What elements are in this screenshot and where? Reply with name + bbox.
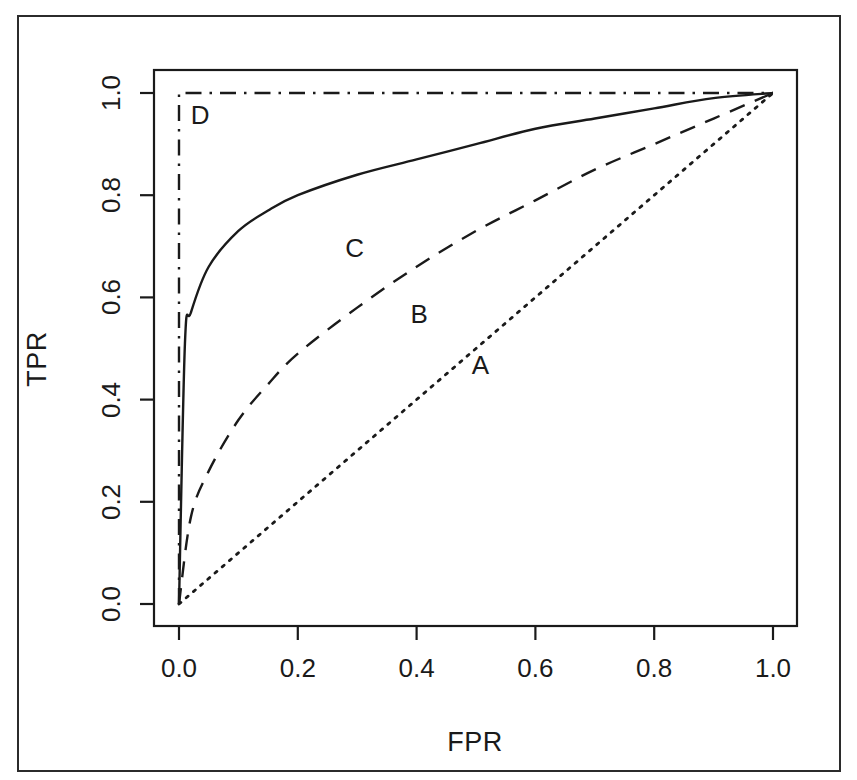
y-tick-label: 0.6 <box>96 262 127 332</box>
x-tick-label: 0.8 <box>619 653 689 684</box>
y-axis-title: TPR <box>22 323 53 395</box>
x-axis-title: FPR <box>405 727 545 758</box>
roc-curves <box>179 93 773 604</box>
y-tick-label: 0.4 <box>96 365 127 435</box>
x-tick-label: 0.4 <box>382 653 452 684</box>
y-tick-label: 1.0 <box>96 58 127 128</box>
y-tick-label: 0.2 <box>96 467 127 537</box>
x-tick-label: 0.6 <box>500 653 570 684</box>
x-tick-label: 0.0 <box>144 653 214 684</box>
y-tick-label: 0.8 <box>96 160 127 230</box>
figure-page: TPR FPR 0.00.20.40.60.81.00.00.20.40.60.… <box>0 0 857 780</box>
roc-curve-a <box>179 93 773 604</box>
y-tick-label: 0.0 <box>96 569 127 639</box>
curve-label-a: A <box>472 350 489 381</box>
x-tick-label: 0.2 <box>263 653 333 684</box>
curve-label-d: D <box>191 100 210 131</box>
curve-label-b: B <box>411 299 428 330</box>
x-tick-label: 1.0 <box>738 653 808 684</box>
curve-label-c: C <box>345 233 364 264</box>
